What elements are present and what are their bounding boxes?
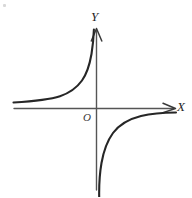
origin-label: O — [83, 112, 91, 123]
curve-branch-quadrant-4 — [99, 113, 176, 198]
x-axis-label: X — [177, 100, 185, 113]
hyperbola-figure: Y X O — [0, 0, 192, 197]
y-axis-label: Y — [91, 10, 98, 23]
curve-branch-quadrant-2 — [14, 30, 94, 103]
graph-canvas — [0, 0, 192, 197]
